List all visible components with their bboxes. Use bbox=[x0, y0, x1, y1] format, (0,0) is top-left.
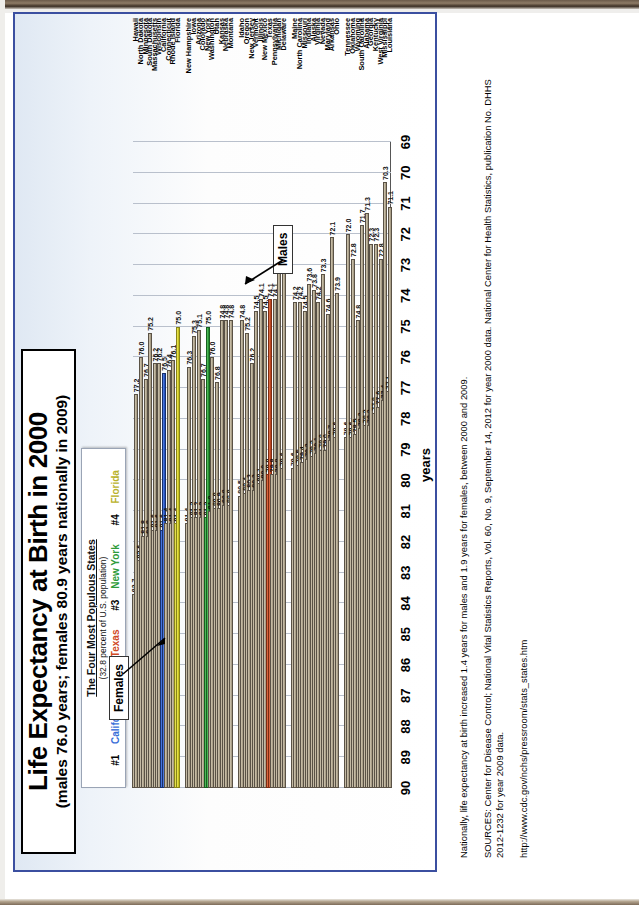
bar-value-label: 75.2 bbox=[147, 317, 154, 331]
plot-area: 83.777.282.676.081.876.781.875.281.676.2… bbox=[133, 142, 391, 788]
page-title: Life Expectancy at Birth in 2000 bbox=[25, 357, 52, 846]
x-axis-tick-label: 80 bbox=[398, 473, 413, 487]
scanner-bottom-edge bbox=[0, 899, 639, 905]
callout-females: Females bbox=[109, 656, 129, 720]
bar-male bbox=[282, 271, 286, 788]
bar-value-label: 72.3 bbox=[373, 228, 380, 242]
legend-populous-states: The Four Most Populous States (32.8 perc… bbox=[81, 448, 126, 788]
callout-males: Males bbox=[273, 225, 293, 274]
bar-value-label: 73.3 bbox=[320, 259, 327, 273]
x-axis-tick-label: 84 bbox=[398, 596, 413, 610]
x-axis-tick-label: 82 bbox=[398, 535, 413, 549]
scanner-left-margin bbox=[0, 0, 5, 905]
x-axis-tick-label: 88 bbox=[398, 719, 413, 733]
x-axis-tick-label: 73 bbox=[398, 258, 413, 272]
gridline bbox=[133, 203, 391, 204]
legend-heading: The Four Most Populous States bbox=[85, 454, 97, 782]
state-labels: HawaiiNorth DakotaMinnesotaSouth DakotaM… bbox=[133, 16, 391, 140]
y-axis-title: years bbox=[418, 142, 433, 788]
state-label: Delaware bbox=[278, 18, 287, 50]
legend-entries: #1 California #2 Texas #3 New York #4 Fl… bbox=[110, 454, 121, 782]
scanned-page: Life Expectancy at Birth in 2000 (males … bbox=[0, 0, 639, 905]
footnote-url[interactable]: http://www.cdc.gov/nchs/pressroom/stats_… bbox=[518, 58, 531, 858]
gridline bbox=[133, 141, 391, 142]
bar-male bbox=[176, 327, 180, 788]
bar-value-label: 72.8 bbox=[350, 243, 357, 257]
chart-figure: Life Expectancy at Birth in 2000 (males … bbox=[13, 12, 437, 872]
legend-entry-florida: #4 Florida bbox=[110, 466, 121, 529]
footnote-sources: SOURCES: Center for Disease Control; Nat… bbox=[482, 58, 507, 858]
bar-value-label: 75.0 bbox=[204, 311, 211, 325]
scanner-top-edge bbox=[0, 0, 639, 9]
x-axis-tick-label: 89 bbox=[398, 750, 413, 764]
legend-entry-newyork: #3 New York bbox=[110, 540, 121, 615]
page-subtitle: (males 76.0 years; females 80.9 years na… bbox=[53, 357, 70, 846]
bar-value-label: 75.2 bbox=[244, 317, 251, 331]
chart-title-box: Life Expectancy at Birth in 2000 (males … bbox=[21, 349, 76, 854]
x-axis-tick-label: 81 bbox=[398, 504, 413, 518]
bar-male bbox=[388, 207, 392, 788]
x-axis-tick-label: 69 bbox=[398, 135, 413, 149]
bar-value-label: 75.1 bbox=[195, 314, 202, 328]
x-axis-ticks: 9089888786858483828180797877767574737271… bbox=[393, 142, 413, 788]
gridline bbox=[133, 233, 391, 234]
x-axis-tick-label: 75 bbox=[398, 319, 413, 333]
bar-value-label: 70.3 bbox=[382, 166, 389, 180]
x-axis-tick-label: 72 bbox=[398, 227, 413, 241]
gridline bbox=[133, 172, 391, 173]
bar-value-label: 73.9 bbox=[333, 277, 340, 291]
bar-value-label: 76.0 bbox=[209, 342, 216, 356]
x-axis-tick-label: 83 bbox=[398, 565, 413, 579]
bar-male bbox=[335, 293, 339, 788]
bar-value-label: 72.0 bbox=[345, 219, 352, 233]
bar-value-label: 76.0 bbox=[138, 342, 145, 356]
bar-value-label: 75.0 bbox=[174, 311, 181, 325]
state-label: Louisiana bbox=[384, 18, 393, 53]
x-axis-tick-label: 77 bbox=[398, 381, 413, 395]
footnotes: Nationally, life expectancy at birth inc… bbox=[458, 38, 608, 858]
x-axis-tick-label: 76 bbox=[398, 350, 413, 364]
bar-male bbox=[229, 320, 233, 788]
legend-subheading: (32.8 percent of U.S. population) bbox=[98, 454, 108, 782]
x-axis-tick-label: 70 bbox=[398, 166, 413, 180]
state-label: Ohio bbox=[331, 18, 340, 35]
state-label: Montana bbox=[225, 18, 234, 48]
x-axis-tick-label: 85 bbox=[398, 627, 413, 641]
x-axis-tick-label: 78 bbox=[398, 412, 413, 426]
x-axis-tick-label: 87 bbox=[398, 688, 413, 702]
x-axis-tick-label: 86 bbox=[398, 658, 413, 672]
x-axis-tick-label: 71 bbox=[398, 196, 413, 210]
footnote-summary: Nationally, life expectancy at birth inc… bbox=[458, 58, 471, 858]
x-axis-tick-label: 90 bbox=[398, 781, 413, 795]
state-label: Florida bbox=[172, 18, 181, 43]
bar-value-label: 74.8 bbox=[227, 305, 234, 319]
x-axis-tick-label: 79 bbox=[398, 442, 413, 456]
x-axis-tick-label: 74 bbox=[398, 289, 413, 303]
bar-value-label: 72.1 bbox=[329, 222, 336, 236]
bar-value-label: 71.3 bbox=[363, 197, 370, 211]
